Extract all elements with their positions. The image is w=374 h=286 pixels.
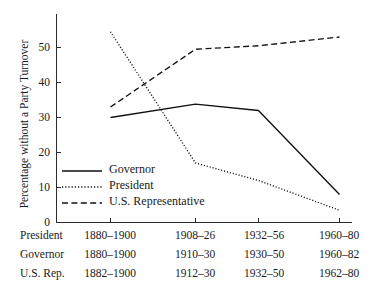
y-tick-marks [57,48,62,223]
chart-figure: 0 10 20 30 40 50 Percentage without a Pa… [0,0,374,286]
x-axis-cell-governor-3: 1930–50 [244,248,284,260]
legend-item-us-representative[interactable]: U.S. Representative [62,193,232,209]
x-axis-row-label-president: President [20,229,63,241]
legend-swatch-dotted-icon [62,179,102,191]
x-axis-cell-us-rep-3: 1932–50 [244,267,284,279]
x-axis-period-table: President 1880–1900 1908–26 1932–56 1960… [0,226,374,283]
y-tick-label-40: 40 [28,77,50,89]
x-axis-cell-president-3: 1932–56 [244,229,284,241]
y-tick-label-30: 30 [28,112,50,124]
x-axis-cell-president-1: 1880–1900 [84,229,136,241]
x-axis-cell-us-rep-1: 1882–1900 [84,267,136,279]
legend-label-governor: Governor [109,162,155,177]
legend-swatch-solid-icon [62,163,102,175]
x-axis-row-label-us-rep: U.S. Rep. [20,267,65,279]
legend-swatch-dashed-icon [62,195,102,207]
legend-label-president: President [109,178,154,193]
x-axis-row-label-governor: Governor [20,248,64,260]
x-axis-row-us-rep: U.S. Rep. 1882–1900 1912–30 1932–50 1962… [0,264,374,283]
x-axis-cell-us-rep-4: 1962–80 [319,267,359,279]
x-axis-cell-president-2: 1908–26 [175,229,215,241]
series-line-us-representative [111,37,340,107]
x-axis-cell-governor-2: 1910–30 [175,248,215,260]
y-tick-label-50: 50 [28,42,50,54]
x-axis-cell-us-rep-2: 1912–30 [175,267,215,279]
x-axis-row-president: President 1880–1900 1908–26 1932–56 1960… [0,226,374,245]
x-tick-marks [111,218,340,223]
x-axis-cell-president-4: 1960–80 [319,229,359,241]
x-axis-row-governor: Governor 1880–1900 1910–30 1930–50 1960–… [0,245,374,264]
chart-legend: Governor President U.S. Representative [62,161,232,209]
y-tick-label-20: 20 [28,147,50,159]
y-axis-label: Percentage without a Party Turnover [18,24,30,224]
legend-item-president[interactable]: President [62,177,232,193]
legend-item-governor[interactable]: Governor [62,161,232,177]
x-axis-cell-governor-1: 1880–1900 [84,248,136,260]
x-axis-cell-governor-4: 1960–82 [319,248,359,260]
legend-label-us-representative: U.S. Representative [109,194,205,209]
y-tick-label-10: 10 [28,182,50,194]
